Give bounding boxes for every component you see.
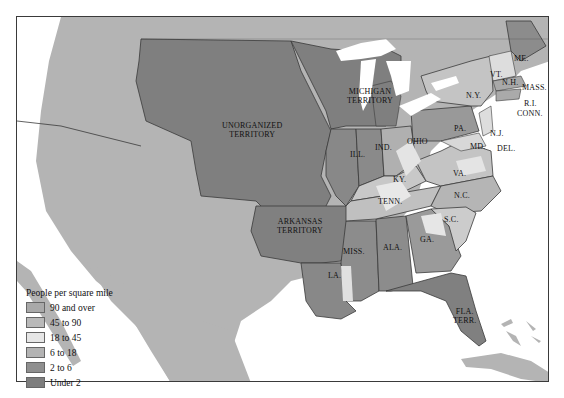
legend-item: 90 and over xyxy=(26,300,113,315)
settlement-patch xyxy=(341,266,353,301)
label-florida-territory: FLA.TERR. xyxy=(453,307,476,325)
label-michigan-territory: MICHIGANTERRITORY xyxy=(347,87,393,105)
label-ny: N.Y. xyxy=(466,91,481,100)
label-la: LA. xyxy=(328,271,341,280)
legend-item: 6 to 18 xyxy=(26,345,113,360)
label-nh: N.H. xyxy=(502,78,518,87)
label-md: MD. xyxy=(470,142,486,151)
label-ind: IND. xyxy=(375,143,392,152)
label-nj: N.J. xyxy=(490,129,504,138)
label-del: DEL. xyxy=(497,144,515,153)
label-arkansas-territory: ARKANSASTERRITORY xyxy=(277,217,323,235)
alabama xyxy=(376,216,413,291)
label-vt: VT. xyxy=(490,70,503,79)
label-unorganized-territory: UNORGANIZEDTERRITORY xyxy=(222,121,282,139)
label-pa: PA. xyxy=(454,124,466,133)
label-ohio: OHIO xyxy=(407,137,428,146)
legend-item: 18 to 45 xyxy=(26,330,113,345)
legend-item: Under 2 xyxy=(26,375,113,390)
legend-swatch xyxy=(26,317,45,328)
label-ill: ILL. xyxy=(350,150,365,159)
label-ala: ALA. xyxy=(383,243,402,252)
legend-swatch xyxy=(26,377,45,388)
label-va: VA. xyxy=(453,169,466,178)
legend-swatch xyxy=(26,302,45,313)
cuba xyxy=(461,353,549,382)
label-sc: S.C. xyxy=(444,215,459,224)
bahamas xyxy=(501,319,541,346)
label-conn: CONN. xyxy=(517,109,543,118)
legend-swatch xyxy=(26,332,45,343)
label-ky: KY. xyxy=(393,175,406,184)
label-tenn: TENN. xyxy=(378,197,402,206)
label-me: ME. xyxy=(514,54,529,63)
legend: People per square mile 90 and over 45 to… xyxy=(26,288,113,390)
label-ri: R.I. xyxy=(524,99,537,108)
legend-title: People per square mile xyxy=(26,288,113,298)
label-miss: MISS. xyxy=(343,247,365,256)
connecticut-ri xyxy=(496,89,521,101)
label-mass: MASS. xyxy=(522,83,547,92)
label-ga: GA. xyxy=(420,235,434,244)
legend-item: 45 to 90 xyxy=(26,315,113,330)
legend-swatch xyxy=(26,362,45,373)
legend-item: 2 to 6 xyxy=(26,360,113,375)
label-nc: N.C. xyxy=(454,191,470,200)
legend-swatch xyxy=(26,347,45,358)
